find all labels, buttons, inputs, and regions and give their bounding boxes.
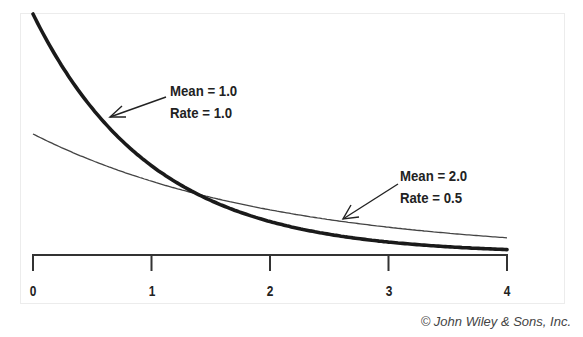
x-tick-label-4: 4 [504,283,511,299]
x-tick-label-1: 1 [149,283,156,299]
chart-plot-area [0,0,583,337]
annotation-rate-1: Mean = 1.0 Rate = 1.0 [170,80,237,124]
arrow-annotation-2 [343,184,398,219]
curve-rate-1-0 [33,14,507,250]
x-tick-label-3: 3 [386,283,393,299]
x-tick-label-2: 2 [267,283,274,299]
x-tick-label-0: 0 [30,283,37,299]
annotation-mean-2: Mean = 2.0 [400,165,467,187]
annotation-rate-1-value: Rate = 1.0 [170,102,237,124]
annotation-rate-05: Mean = 2.0 Rate = 0.5 [400,165,467,209]
annotation-mean-1: Mean = 1.0 [170,80,237,102]
annotation-rate-05-value: Rate = 0.5 [400,187,467,209]
copyright-credit: © John Wiley & Sons, Inc. [421,314,571,329]
arrow-annotation-1 [110,97,166,117]
x-axis [33,254,507,271]
